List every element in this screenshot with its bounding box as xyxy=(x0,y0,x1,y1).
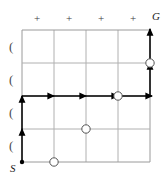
node-circle-3[interactable] xyxy=(114,92,122,100)
left-mark-paren-2: ( xyxy=(9,73,13,86)
grid-path-canvas xyxy=(0,0,167,183)
start-dot xyxy=(20,160,24,164)
node-circle-2[interactable] xyxy=(82,125,90,133)
top-mark-plus-2: + xyxy=(66,13,72,24)
top-mark-plus-4: + xyxy=(130,13,136,24)
left-mark-paren-4: ( xyxy=(9,139,13,152)
node-circle-1[interactable] xyxy=(50,158,58,166)
goal-label: G xyxy=(152,11,160,22)
left-mark-paren-1: ( xyxy=(9,40,13,53)
top-mark-plus-3: + xyxy=(98,13,104,24)
top-mark-plus-1: + xyxy=(34,13,40,24)
grid-path-figure: + + + + ( ( ( ( G S xyxy=(0,0,167,183)
start-label: S xyxy=(10,163,16,174)
node-circle-4[interactable] xyxy=(146,59,154,67)
left-mark-paren-3: ( xyxy=(9,106,13,119)
